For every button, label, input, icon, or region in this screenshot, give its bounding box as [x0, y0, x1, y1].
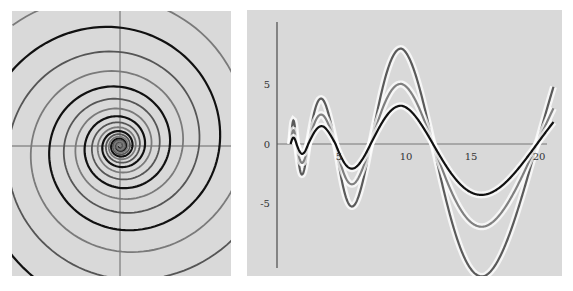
spiral-spiral-dark-gray [12, 51, 231, 276]
y-tick-label: 0 [264, 139, 270, 150]
y-tick-label: 5 [264, 79, 270, 90]
spiral-figure-panel [12, 11, 231, 276]
curve-halo-dark-gray [291, 49, 554, 276]
curve-dark-gray [291, 49, 554, 276]
x-tick-label: 15 [465, 151, 478, 162]
caption-text-cutoff [0, 286, 573, 291]
oscillation-figure-panel: 510152050-5 [247, 10, 562, 276]
x-tick-label: 10 [400, 151, 413, 162]
spiral-plot [12, 11, 231, 276]
oscillation-plot: 510152050-5 [247, 10, 562, 276]
y-tick-label: -5 [260, 198, 270, 209]
x-tick-label: 5 [336, 151, 342, 162]
x-tick-label: 20 [533, 151, 546, 162]
